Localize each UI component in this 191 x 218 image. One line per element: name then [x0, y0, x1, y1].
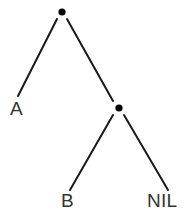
edge-root-to-inner [67, 19, 113, 101]
edge-inner-to-nil [124, 115, 168, 190]
edge-root-to-a [18, 19, 57, 96]
tree-diagram: A B NIL [0, 0, 191, 218]
root-node-dot [58, 8, 65, 15]
leaf-label-b: B [61, 191, 74, 210]
leaf-label-nil: NIL [147, 191, 177, 210]
edge-inner-to-b [70, 115, 113, 190]
leaf-label-a: A [10, 99, 23, 118]
inner-node-dot [115, 104, 122, 111]
tree-edges-layer [0, 0, 191, 218]
